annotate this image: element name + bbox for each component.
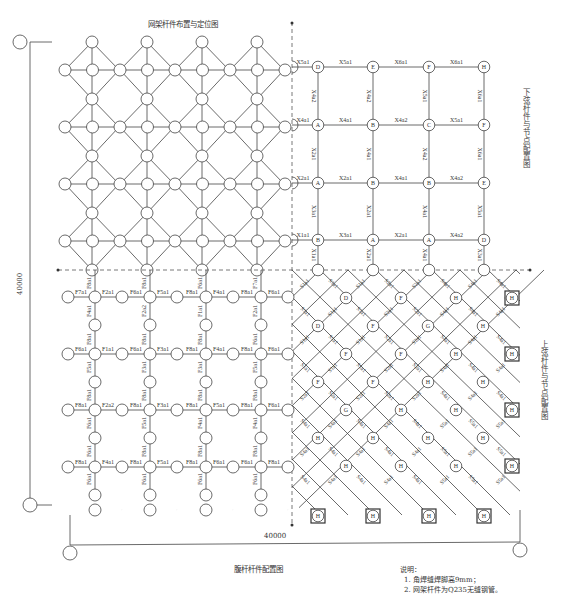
node-circle — [251, 150, 263, 162]
web-node — [62, 461, 74, 473]
node-circle — [114, 235, 126, 247]
member-label: F6a1 — [86, 445, 92, 457]
web-node — [227, 404, 239, 416]
member-label: F7a1 — [75, 289, 87, 295]
member-label: F2a2 — [102, 402, 114, 408]
node-circle — [114, 121, 126, 133]
member-label: S2a1 — [412, 361, 424, 373]
node-circle — [142, 121, 154, 133]
member-label: S4a1 — [496, 389, 508, 401]
member-label: S4a1 — [356, 473, 368, 485]
member-label: F6a1 — [130, 289, 142, 295]
node-letter: A — [316, 122, 321, 128]
node-letter: G — [426, 323, 431, 329]
member-label: S4a1 — [384, 445, 396, 457]
member-label: F8a1 — [197, 333, 203, 345]
member-label: F8a1 — [252, 445, 258, 457]
web-node — [171, 404, 183, 416]
web-members-title: 腹杆杆件配置图 — [234, 563, 283, 574]
member-label: X2a1 — [311, 148, 317, 161]
web-node — [116, 461, 128, 473]
node-circle — [197, 64, 209, 76]
member-label: S2a1 — [410, 277, 422, 289]
note-item-1: 1. 角焊缝焊脚高9mm； — [400, 575, 502, 585]
member-label: X4a2 — [450, 232, 463, 238]
dimension-line-horizontal — [70, 542, 520, 545]
member-label: F8a1 — [86, 389, 92, 401]
node-circle — [141, 93, 153, 105]
node-circle — [224, 235, 236, 247]
member-label: S5a1 — [496, 445, 508, 457]
member-label: S5a1 — [438, 417, 450, 429]
web-node — [255, 291, 267, 303]
member-label: X4a1 — [339, 117, 352, 123]
member-label: X4a1 — [395, 175, 408, 181]
member-label: S4a1 — [440, 333, 452, 345]
member-label: S5a1 — [468, 473, 480, 485]
grid-layout-title: 网架杆件布置与定位图 — [148, 18, 218, 29]
notes-heading: 说明： — [400, 565, 502, 575]
node-circle — [141, 150, 153, 162]
member-label: S2a1 — [384, 333, 396, 345]
member-label: F8a1 — [75, 402, 87, 408]
member-label: F4a1 — [213, 346, 225, 352]
member-label: F8a1 — [86, 277, 92, 289]
node-letter: B — [371, 180, 375, 186]
member-label: F8a1 — [186, 402, 198, 408]
web-node — [255, 489, 267, 501]
dimension-vertical: 40000 — [16, 273, 24, 295]
member-label: X6a1 — [477, 148, 483, 161]
member-label: F4a1 — [252, 417, 258, 429]
member-label: X2a1 — [297, 175, 310, 181]
web-node — [144, 461, 156, 473]
member-label: F5a1 — [213, 402, 225, 408]
node-letter: B — [316, 237, 320, 243]
member-label: F8a1 — [141, 333, 147, 345]
node-circle — [87, 235, 99, 247]
node-letter: H — [399, 407, 404, 413]
member-label: X4a2 — [395, 117, 408, 123]
web-node — [255, 404, 267, 416]
member-label: F8a1 — [241, 402, 253, 408]
web-node — [62, 404, 74, 416]
member-label: F8a1 — [186, 289, 198, 295]
member-label: F8a1 — [186, 459, 198, 465]
web-node — [89, 489, 101, 501]
member-label: S1a1 — [298, 277, 310, 289]
member-label: F6a1 — [252, 333, 258, 345]
node-letter: H — [510, 351, 515, 357]
node-circle — [196, 93, 208, 105]
member-label: X5a1 — [477, 205, 483, 218]
node-circle — [59, 178, 71, 190]
member-label: F4a1 — [86, 305, 92, 317]
node-letter: H — [316, 513, 321, 519]
node-letter: H — [454, 295, 459, 301]
member-label: X4a2 — [311, 90, 317, 103]
member-label: S4a1 — [496, 333, 508, 345]
web-node — [144, 504, 156, 516]
member-label: S5a1 — [494, 417, 506, 429]
node-circle — [279, 64, 291, 76]
node-letter: H — [426, 379, 431, 385]
web-node — [227, 291, 239, 303]
web-node — [89, 404, 101, 416]
node-letter: H — [510, 295, 515, 301]
member-label: X5a1 — [339, 59, 352, 65]
member-label: F3a1 — [157, 346, 169, 352]
member-label: F6a1 — [268, 346, 280, 352]
web-node — [200, 319, 212, 331]
member-label: S4a1 — [298, 445, 310, 457]
node-letter: H — [316, 435, 321, 441]
axis-bubble — [63, 546, 77, 560]
member-label: X4a2 — [366, 90, 372, 103]
node-circle — [252, 235, 264, 247]
member-label: S4a1 — [440, 389, 452, 401]
web-node — [89, 348, 101, 360]
member-label: X4a2 — [450, 175, 463, 181]
member-label: F6a1 — [197, 473, 203, 485]
member-label: X4a1 — [422, 205, 428, 218]
node-circle — [196, 207, 208, 219]
node-letter: D — [316, 64, 321, 70]
member-label: S2a1 — [384, 389, 396, 401]
node-letter: C — [427, 122, 431, 128]
